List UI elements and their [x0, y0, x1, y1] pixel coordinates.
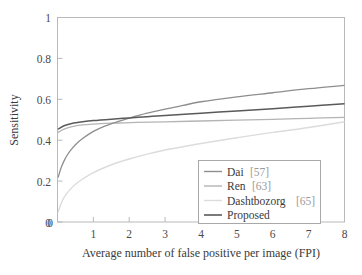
x-tick-label-3: 3 — [162, 228, 168, 240]
froc-chart-figure: 1 0.8 0.6 0.4 0.2 0 0 1 2 3 4 5 6 7 — [0, 0, 362, 275]
legend-label-proposed: Proposed — [227, 209, 270, 222]
x-tick-label-0: 0 — [47, 217, 53, 229]
legend-label-dashtbozorg: Dashtbozorg — [227, 195, 286, 208]
x-tick-label-8: 8 — [342, 228, 348, 240]
y-tick-label-1: 1 — [45, 12, 51, 24]
x-axis-title: Average number of false positive per ima… — [82, 246, 320, 260]
y-tick-label-08: 0.8 — [37, 53, 52, 65]
x-tick-label-4: 4 — [198, 228, 204, 240]
x-tick-label-7: 7 — [306, 228, 312, 240]
legend-label-ren: Ren — [227, 180, 246, 192]
y-axis-title: Sensitivity — [7, 94, 21, 145]
legend[interactable]: Dai [57] Ren [63] Dashtbozorg [65] Propo… — [199, 161, 321, 224]
legend-label-dai: Dai — [227, 166, 244, 178]
x-tick-label-1: 1 — [91, 228, 97, 240]
y-tick-label-02: 0.2 — [37, 176, 52, 188]
y-tick-label-04: 0.4 — [37, 135, 52, 147]
x-tick-label-5: 5 — [234, 228, 240, 240]
x-tick-label-2: 2 — [126, 228, 132, 240]
legend-ref-dai: [57] — [250, 166, 269, 178]
y-tick-label-06: 0.6 — [37, 94, 52, 106]
chart-canvas: 1 0.8 0.6 0.4 0.2 0 0 1 2 3 4 5 6 7 — [0, 0, 362, 275]
legend-ref-dashtbozorg: [65] — [296, 195, 315, 207]
legend-ref-ren: [63] — [252, 180, 271, 192]
x-tick-label-6: 6 — [270, 228, 276, 240]
